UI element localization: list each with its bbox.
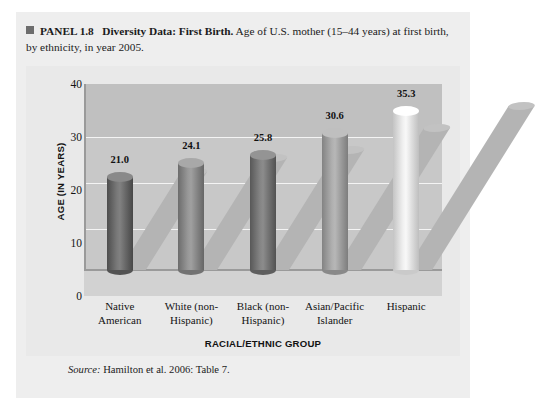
- bar[interactable]: [250, 150, 276, 270]
- x-tick-label: White (non-Hispanic): [156, 300, 228, 327]
- y-tick-label: 30: [71, 131, 83, 143]
- source-text: Hamilton et al. 2006: Table 7.: [101, 364, 230, 375]
- bar-value-label: 35.3: [376, 88, 436, 99]
- y-tick-label: 10: [71, 237, 83, 249]
- x-tick-line: Hispanic): [227, 314, 299, 328]
- x-tick-line: Native: [84, 300, 156, 314]
- panel-title: Diversity Data: First Birth.: [102, 25, 233, 37]
- bar-body: [250, 155, 276, 270]
- y-axis-line: [84, 84, 86, 270]
- square-bullet-icon: [26, 26, 34, 34]
- x-axis-ticks: NativeAmericanWhite (non-Hispanic)Black …: [84, 300, 442, 334]
- panel-container: PANEL 1.8 Diversity Data: First Birth. A…: [16, 12, 470, 398]
- x-tick-label: NativeAmerican: [84, 300, 156, 327]
- y-tick-label: 0: [76, 290, 82, 302]
- x-tick-label: Asian/PacificIslander: [299, 300, 371, 327]
- y-axis-ticks: 40 30 20 10 0: [50, 84, 82, 296]
- panel-caption: PANEL 1.8 Diversity Data: First Birth. A…: [26, 24, 460, 55]
- bar-value-label: 30.6: [305, 110, 365, 121]
- source-prefix: Source:: [68, 364, 101, 375]
- source-note: Source: Hamilton et al. 2006: Table 7.: [68, 364, 230, 375]
- bar-value-label: 24.1: [161, 140, 221, 151]
- x-axis-title: RACIAL/ETHNIC GROUP: [84, 338, 442, 349]
- x-tick-label: Hispanic: [370, 300, 442, 314]
- bar-body: [393, 111, 419, 270]
- bar-body: [178, 163, 204, 270]
- plot-region: 21.024.125.830.635.3: [84, 84, 442, 296]
- bar-body: [107, 177, 133, 270]
- bar-top-cap: [250, 150, 276, 160]
- bar-shadow-cap: [506, 102, 537, 110]
- bar-value-label: 25.8: [233, 132, 293, 143]
- bar[interactable]: [322, 128, 348, 270]
- x-tick-line: White (non-: [156, 300, 228, 314]
- x-tick-line: Asian/Pacific: [299, 300, 371, 314]
- x-tick-line: Islander: [299, 314, 371, 328]
- y-tick-label: 40: [71, 78, 83, 90]
- x-tick-line: Hispanic): [156, 314, 228, 328]
- x-tick-line: Hispanic: [370, 300, 442, 314]
- bar-body: [322, 133, 348, 270]
- chart-area: AGE (IN YEARS) 40 30 20 10 0 21.024.125.…: [26, 66, 460, 356]
- panel-label: PANEL 1.8: [40, 25, 94, 37]
- bar-top-cap: [322, 128, 348, 138]
- y-tick-label: 20: [71, 184, 83, 196]
- x-tick-label: Black (non-Hispanic): [227, 300, 299, 327]
- bar-top-cap: [393, 106, 419, 116]
- bar[interactable]: [178, 158, 204, 270]
- bar-value-label: 21.0: [90, 154, 150, 165]
- bar[interactable]: [393, 106, 419, 270]
- x-tick-line: American: [84, 314, 156, 328]
- x-tick-line: Black (non-: [227, 300, 299, 314]
- bar[interactable]: [107, 172, 133, 270]
